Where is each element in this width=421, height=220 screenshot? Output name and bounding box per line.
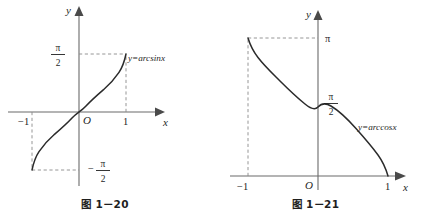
origin-label: O <box>305 179 313 191</box>
y-axis-arrowhead <box>75 6 84 16</box>
x-axis-label: x <box>162 116 168 128</box>
pi-over-2-numerator: π <box>56 43 61 53</box>
figure-1-21: O x y −1 1 π π 2 y=arccosx 图 1－21 <box>210 0 421 220</box>
arccos-plot: O x y −1 1 π π 2 y=arccosx <box>210 0 421 196</box>
x-axis-label: x <box>402 181 408 193</box>
y-axis-arrowhead <box>314 10 323 20</box>
x-tick-label-one: 1 <box>385 181 390 192</box>
figure-1-20: O x y −1 1 π 2 − π 2 y=arcsinx <box>0 0 210 220</box>
y-axis-label: y <box>65 4 71 16</box>
neg-pi-over-2-minus-sign: − <box>88 163 94 174</box>
x-axis-arrowhead <box>395 172 406 181</box>
neg-pi-over-2-numerator: π <box>101 159 106 169</box>
arcsin-plot: O x y −1 1 π 2 − π 2 y=arcsinx <box>0 0 210 196</box>
function-label-arccos: y=arccosx <box>357 122 397 132</box>
y-axis-label: y <box>305 8 311 20</box>
y-tick-label-neg-pi-over-2: − π 2 <box>88 159 110 184</box>
pi-over-2-denominator: 2 <box>56 58 61 68</box>
x-tick-label-one: 1 <box>123 116 128 127</box>
pi-over-2-denominator: 2 <box>329 107 334 117</box>
pi-over-2-numerator: π <box>329 92 334 102</box>
origin-label: O <box>83 114 91 126</box>
neg-pi-over-2-denominator: 2 <box>101 174 106 184</box>
y-tick-label-pi-over-2: π 2 <box>51 43 65 68</box>
figure-caption-1-20: 图 1－20 <box>0 196 210 211</box>
x-tick-label-neg-one: −1 <box>237 181 248 192</box>
x-tick-label-neg-one: −1 <box>18 116 29 127</box>
figure-pair-page: O x y −1 1 π 2 − π 2 y=arcsinx <box>0 0 421 220</box>
function-label-arcsin: y=arcsinx <box>127 53 166 63</box>
y-tick-label-pi: π <box>325 33 331 44</box>
figure-caption-1-21: 图 1－21 <box>210 196 421 211</box>
